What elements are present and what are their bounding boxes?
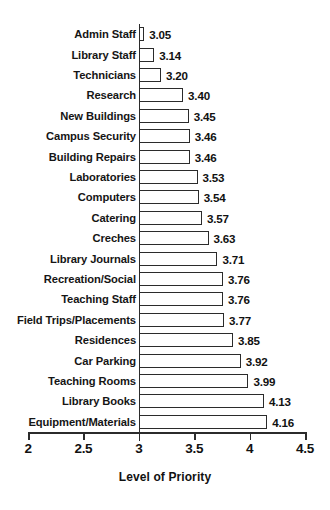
category-label: New Buildings <box>60 110 136 122</box>
x-axis-tick <box>28 432 30 440</box>
x-axis-tick-label: 2 <box>24 441 31 456</box>
bar-row: Creches3.63 <box>0 228 330 249</box>
x-axis-tick <box>139 432 141 440</box>
bar-value-label: 3.92 <box>246 354 268 367</box>
bar-value-label: 4.16 <box>272 415 294 428</box>
bar-row: Library Journals3.71 <box>0 248 330 269</box>
bar-value-label: 3.76 <box>228 293 250 306</box>
bar <box>139 374 249 388</box>
bar <box>139 394 264 408</box>
bar <box>139 129 190 143</box>
category-label: Creches <box>93 232 136 244</box>
bar <box>139 333 233 347</box>
bar-row: Building Repairs3.46 <box>0 146 330 167</box>
bar-row: Residences3.85 <box>0 330 330 351</box>
bar-row: Campus Security3.46 <box>0 126 330 147</box>
bar-row: Computers3.54 <box>0 187 330 208</box>
bar-value-label: 3.14 <box>159 48 181 61</box>
bar-row: Field Trips/Placements3.77 <box>0 310 330 331</box>
bar <box>139 190 199 204</box>
bar-value-label: 3.57 <box>207 211 229 224</box>
category-label: Campus Security <box>46 130 136 142</box>
category-label: Teaching Staff <box>61 293 136 305</box>
category-label: Library Journals <box>50 253 136 265</box>
bar <box>139 415 268 429</box>
bar-row: Car Parking3.92 <box>0 350 330 371</box>
bar <box>139 88 183 102</box>
bar-value-label: 3.54 <box>204 191 226 204</box>
bar-value-label: 3.20 <box>166 69 188 82</box>
bar <box>139 48 155 62</box>
x-axis-line <box>28 432 305 434</box>
bar-value-label: 3.46 <box>195 150 217 163</box>
bar-value-label: 3.99 <box>253 375 275 388</box>
category-label: Technicians <box>73 69 136 81</box>
category-label: Research <box>86 89 136 101</box>
bar <box>139 68 161 82</box>
bar-row: New Buildings3.45 <box>0 106 330 127</box>
category-label: Library Books <box>62 395 136 407</box>
x-axis-tick <box>194 432 196 440</box>
x-axis-tick-label: 4.5 <box>296 441 314 456</box>
bar-row: Library Staff3.14 <box>0 44 330 65</box>
bar-value-label: 3.45 <box>194 109 216 122</box>
x-axis-title: Level of Priority <box>0 470 330 484</box>
bar <box>139 211 202 225</box>
category-label: Computers <box>78 191 136 203</box>
category-label: Laboratories <box>69 171 136 183</box>
bar-value-label: 3.85 <box>238 334 260 347</box>
category-label: Residences <box>75 334 136 346</box>
baseline-axis-line <box>139 24 141 441</box>
bar-value-label: 3.53 <box>203 171 225 184</box>
bar-row: Admin Staff3.05 <box>0 24 330 45</box>
x-axis-tick-label: 3 <box>135 441 142 456</box>
bar <box>139 150 190 164</box>
bar-row: Library Books4.13 <box>0 391 330 412</box>
category-label: Building Repairs <box>49 151 136 163</box>
bar-row: Technicians3.20 <box>0 65 330 86</box>
bar-value-label: 3.63 <box>214 232 236 245</box>
bar <box>139 109 189 123</box>
category-label: Catering <box>91 212 136 224</box>
bar <box>139 231 209 245</box>
category-label: Car Parking <box>74 355 136 367</box>
x-axis-tick-label: 3.5 <box>185 441 203 456</box>
bar <box>139 252 218 266</box>
bar-value-label: 3.76 <box>228 273 250 286</box>
bar <box>139 292 223 306</box>
bar-row: Laboratories3.53 <box>0 167 330 188</box>
category-label: Library Staff <box>71 49 136 61</box>
bar-row: Teaching Staff3.76 <box>0 289 330 310</box>
bar-row: Research3.40 <box>0 85 330 106</box>
bar <box>139 272 223 286</box>
bar-value-label: 3.46 <box>195 130 217 143</box>
category-label: Teaching Rooms <box>48 375 136 387</box>
category-label: Field Trips/Placements <box>17 314 136 326</box>
bar-row: Catering3.57 <box>0 208 330 229</box>
bar <box>139 170 198 184</box>
x-axis-tick-label: 4 <box>246 441 253 456</box>
category-label: Admin Staff <box>74 28 136 40</box>
x-axis-tick <box>250 432 252 440</box>
bar <box>139 313 224 327</box>
x-axis-tick <box>83 432 85 440</box>
bar-row: Teaching Rooms3.99 <box>0 371 330 392</box>
bar-value-label: 4.13 <box>269 395 291 408</box>
bar-row: Equipment/Materials4.16 <box>0 412 330 433</box>
bar-value-label: 3.77 <box>229 313 251 326</box>
bar <box>139 354 241 368</box>
priority-bar-chart: Admin Staff3.05Library Staff3.14Technici… <box>0 0 330 510</box>
x-axis-tick-label: 2.5 <box>74 441 92 456</box>
x-axis-tick <box>305 432 307 440</box>
bar-value-label: 3.05 <box>149 28 171 41</box>
bar-row: Recreation/Social3.76 <box>0 269 330 290</box>
category-label: Equipment/Materials <box>28 416 136 428</box>
bar-value-label: 3.71 <box>222 252 244 265</box>
category-label: Recreation/Social <box>44 273 136 285</box>
bar-value-label: 3.40 <box>188 89 210 102</box>
